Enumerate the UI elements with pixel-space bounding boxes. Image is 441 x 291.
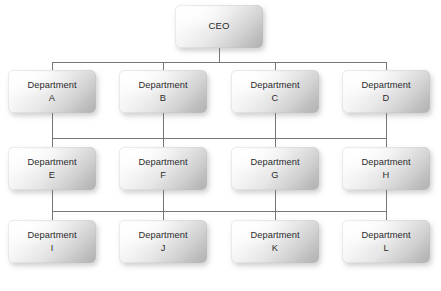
connector-riser-dept-d [386, 113, 387, 139]
node-dept-b[interactable]: Department B [119, 70, 207, 113]
connector-riser-dept-h [386, 190, 387, 212]
node-dept-b-label: Department B [138, 79, 187, 103]
node-dept-e[interactable]: Department E [8, 147, 96, 190]
connector-riser-dept-a [52, 113, 53, 139]
node-ceo[interactable]: CEO [175, 5, 263, 48]
node-dept-c-label: Department C [250, 79, 299, 103]
connector-ceo-stem [219, 48, 220, 62]
node-dept-d-label: Department D [361, 79, 410, 103]
connector-riser-dept-b [163, 113, 164, 139]
connector-bus-level-2 [52, 138, 386, 139]
node-dept-c[interactable]: Department C [231, 70, 319, 113]
connector-riser-dept-f [163, 190, 164, 212]
node-dept-j[interactable]: Department J [119, 220, 207, 263]
node-dept-j-label: Department J [138, 229, 187, 253]
node-dept-h[interactable]: Department H [342, 147, 430, 190]
connector-bus-level-3 [52, 211, 386, 212]
node-dept-l-label: Department L [361, 229, 410, 253]
node-dept-a-label: Department A [27, 79, 76, 103]
node-dept-f-label: Department F [138, 156, 187, 180]
node-dept-g[interactable]: Department G [231, 147, 319, 190]
node-dept-i-label: Department I [27, 229, 76, 253]
connector-riser-dept-g [275, 190, 276, 212]
node-dept-g-label: Department G [250, 156, 299, 180]
node-ceo-label: CEO [209, 20, 230, 32]
node-dept-k-label: Department K [250, 229, 299, 253]
node-dept-l[interactable]: Department L [342, 220, 430, 263]
connector-riser-dept-c [275, 113, 276, 139]
node-dept-h-label: Department H [361, 156, 410, 180]
connector-bus-level-1 [52, 62, 386, 63]
connector-riser-dept-e [52, 190, 53, 212]
node-dept-k[interactable]: Department K [231, 220, 319, 263]
node-dept-a[interactable]: Department A [8, 70, 96, 113]
node-dept-e-label: Department E [27, 156, 76, 180]
org-chart-canvas: CEO Department A Department B Department… [0, 0, 441, 291]
node-dept-f[interactable]: Department F [119, 147, 207, 190]
node-dept-d[interactable]: Department D [342, 70, 430, 113]
node-dept-i[interactable]: Department I [8, 220, 96, 263]
